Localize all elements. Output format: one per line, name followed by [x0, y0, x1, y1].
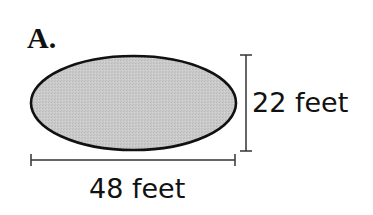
width-dimension-line: [31, 154, 235, 166]
width-label: 48 feet: [89, 173, 185, 204]
height-dimension-line: [240, 55, 252, 151]
ellipse-shape: [31, 56, 236, 150]
ellipse-diagram: A. 22 feet 48 feet: [0, 0, 373, 215]
problem-label: A.: [27, 21, 56, 54]
diagram-canvas: A. 22 feet 48 feet: [0, 0, 373, 215]
height-label: 22 feet: [252, 87, 348, 118]
